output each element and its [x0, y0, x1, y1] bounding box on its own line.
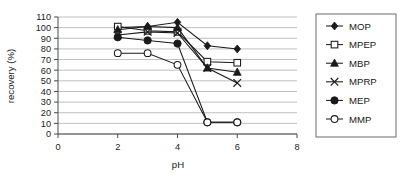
x-tick-label-8: 8 [294, 142, 299, 152]
datapoint-MMP-ph2 [114, 50, 121, 57]
y-tick-label-0: 0 [46, 129, 51, 139]
datapoint-MEP-ph2 [114, 34, 121, 41]
legend-label-MMP: MMP [349, 114, 371, 125]
x-tick-label-6: 6 [235, 142, 240, 152]
datapoint-MOP-ph6 [234, 45, 241, 53]
x-tick-label-4: 4 [175, 142, 180, 152]
legend-label-MBP: MBP [349, 58, 370, 69]
datapoint-MPEP-ph6 [234, 59, 241, 66]
datapoint-MEP-ph3 [144, 37, 151, 44]
legend-marker-MPEP [331, 41, 338, 48]
y-tick-label-50: 50 [41, 76, 51, 86]
series-MPRP [114, 28, 241, 87]
legend-marker-MEP [331, 97, 338, 104]
datapoint-MMP-ph4 [174, 61, 181, 68]
y-tick-label-80: 80 [41, 44, 51, 54]
datapoint-MMP-ph5 [204, 119, 211, 126]
y-tick-label-90: 90 [41, 34, 51, 44]
data-series-group [114, 18, 241, 126]
legend-marker-MMP [331, 116, 338, 123]
legend-label-MPEP: MPEP [349, 39, 376, 50]
y-tick-label-100: 100 [36, 23, 51, 33]
datapoint-MMP-ph6 [234, 119, 241, 126]
y-tick-label-70: 70 [41, 55, 51, 65]
series-line-MEP [118, 37, 238, 122]
y-tick-label-30: 30 [41, 97, 51, 107]
y-axis-title: recovery (%) [5, 49, 16, 103]
y-tick-label-40: 40 [41, 87, 51, 97]
series-MMP [114, 50, 240, 126]
y-tick-label-20: 20 [41, 108, 51, 118]
x-axis-ticks: 02468 [55, 134, 299, 152]
datapoint-MMP-ph3 [144, 50, 151, 57]
x-tick-label-2: 2 [115, 142, 120, 152]
y-axis-ticks: 0102030405060708090100110 [36, 12, 58, 139]
y-tick-label-10: 10 [41, 119, 51, 129]
chart-figure: 0102030405060708090100110 02468 recovery… [0, 0, 400, 186]
y-tick-label-60: 60 [41, 66, 51, 76]
x-tick-label-0: 0 [55, 142, 60, 152]
recovery-vs-ph-line-chart: 0102030405060708090100110 02468 recovery… [0, 0, 400, 186]
datapoint-MEP-ph4 [174, 40, 181, 47]
legend-label-MEP: MEP [349, 95, 370, 106]
legend-label-MOP: MOP [349, 21, 371, 32]
legend-label-MPRP: MPRP [349, 76, 377, 87]
y-tick-label-110: 110 [36, 12, 51, 22]
x-axis-title: pH [172, 159, 184, 170]
